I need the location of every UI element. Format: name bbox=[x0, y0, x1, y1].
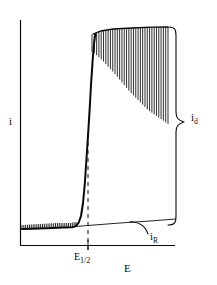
residual-current-line bbox=[75, 219, 176, 227]
plot-canvas bbox=[0, 0, 217, 285]
residual-current-label: iR bbox=[150, 231, 158, 245]
polarographic-wave-trace bbox=[22, 34, 95, 229]
half-wave-potential-label: E1/2 bbox=[74, 252, 90, 265]
diffusion-current-label-sub: d bbox=[194, 117, 198, 126]
residual-current-label-sub: R bbox=[153, 236, 158, 245]
polarogram-figure: i E E1/2 id iR bbox=[0, 0, 217, 285]
x-axis-label: E bbox=[124, 263, 131, 274]
residual-current-leader-hook bbox=[130, 222, 148, 234]
y-axis-label: i bbox=[9, 116, 12, 127]
plateau-oscillation-group bbox=[92, 27, 168, 124]
diffusion-current-label: id bbox=[191, 112, 198, 126]
half-wave-potential-label-sub: 1/2 bbox=[80, 256, 90, 265]
diffusion-current-brace bbox=[168, 27, 184, 225]
